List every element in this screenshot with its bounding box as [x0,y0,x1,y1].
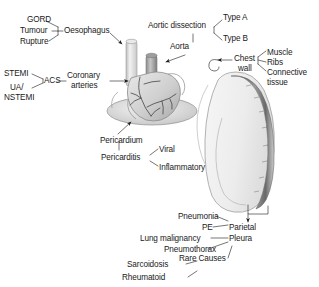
label-inflammatory: Inflammatory [159,163,205,172]
label-connective-line1: Connective [267,68,307,77]
label-aortic-dissection: Aortic dissection [148,21,206,30]
label-stemi: STEMI [4,69,29,78]
heart-illustration [107,39,197,125]
label-chest-wall-line2: wall [238,64,252,73]
label-coronary-arteries-line1: Coronary [67,71,100,80]
label-sarcoidosis: Sarcoidosis [127,260,168,269]
label-pneumothorax: Pneumothorax [164,245,216,254]
label-rare-causes: Rare Causes [179,254,226,263]
label-connective-line2: tissue [267,78,288,87]
label-oesophagus: Oesophagus [64,26,109,35]
label-type-b: Type B [223,34,248,43]
label-chest-wall-line1: Chest [234,54,255,63]
label-rupture: Rupture [20,37,48,46]
label-coronary-arteries-line2: arteries [71,81,98,90]
label-type-a: Type A [223,13,247,22]
label-pericardium: Pericardium [100,136,143,145]
label-tumour: Tumour [20,26,47,35]
label-parietal: Parietal [229,223,256,232]
label-gord: GORD [27,15,51,24]
lung-illustration [197,72,274,212]
label-aorta: Aorta [170,42,189,51]
label-lung-malignancy: Lung malignancy [140,234,200,243]
label-nstemi: NSTEMI [4,93,34,102]
label-muscle: Muscle [267,48,292,57]
label-viral: Viral [159,145,175,154]
label-pe: PE [202,223,213,232]
label-ua: UA/ [10,83,23,92]
label-ribs: Ribs [267,58,283,67]
label-pneumonia: Pneumonia [178,212,219,221]
label-acs: ACS [44,76,61,85]
label-pericarditis: Pericarditis [101,153,140,162]
label-rheumatoid: Rheumatoid [122,273,165,282]
label-pleura: Pleura [229,234,252,243]
